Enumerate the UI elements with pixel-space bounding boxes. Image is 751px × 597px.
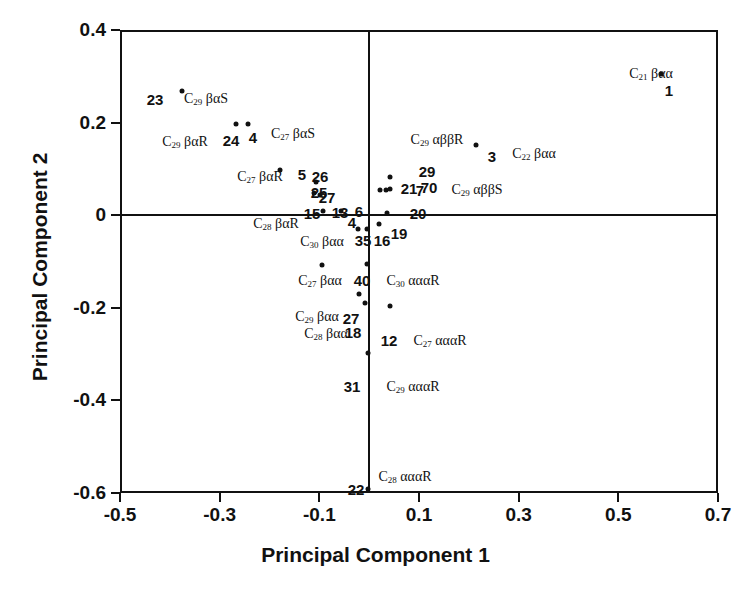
x-tick-label: 0.1 <box>384 504 454 526</box>
y-tick <box>111 122 120 124</box>
point-id-label: 5 <box>298 167 306 182</box>
x-tick-label: 0.5 <box>583 504 653 526</box>
scatter-point <box>320 209 325 214</box>
point-id-label: 21 <box>401 181 418 196</box>
pca-loadings-plot: -0.5-0.3-0.10.10.30.50.7 0.40.20-0.2-0.4… <box>0 0 751 597</box>
y-tick <box>111 29 120 31</box>
x-tick-label: -0.1 <box>284 504 354 526</box>
point-id-label: 22 <box>348 482 365 497</box>
x-tick-label: 0.7 <box>683 504 751 526</box>
y-tick-label: -0.6 <box>30 482 106 504</box>
compound-label: C29 αααR <box>386 380 439 395</box>
point-id-label: 29 <box>419 164 436 179</box>
y-tick <box>111 399 120 401</box>
compound-label: C29 αββS <box>451 183 502 198</box>
compound-label: C30 βαα <box>300 235 344 250</box>
x-tick <box>617 493 619 502</box>
compound-label: C29 βαS <box>184 92 228 107</box>
point-id-label: 13 <box>332 205 349 220</box>
x-tick-label: -0.5 <box>85 504 155 526</box>
point-id-label: 18 <box>345 325 362 340</box>
y-tick <box>111 307 120 309</box>
x-axis-title: Principal Component 1 <box>0 543 751 567</box>
point-id-label: 20 <box>410 206 427 221</box>
compound-label: C28 βαα <box>304 327 348 342</box>
compound-label: C27 βαS <box>271 127 315 142</box>
x-tick <box>119 493 121 502</box>
scatter-point <box>233 122 238 127</box>
compound-label: C29 βαα <box>295 310 339 325</box>
compound-label: C27 αααR <box>413 334 466 349</box>
point-id-label: 40 <box>354 273 371 288</box>
scatter-point <box>319 263 324 268</box>
x-tick-label: -0.3 <box>185 504 255 526</box>
x-tick <box>717 493 719 502</box>
x-tick-label: 0.3 <box>484 504 554 526</box>
point-id-label: 12 <box>381 333 398 348</box>
point-id-label: 1 <box>665 83 673 98</box>
point-id-label: 35 <box>355 233 372 248</box>
scatter-point <box>366 487 371 492</box>
point-id-label: 15 <box>304 206 321 221</box>
point-id-label: 70 <box>421 180 438 195</box>
scatter-point <box>357 291 362 296</box>
scatter-point <box>388 304 393 309</box>
scatter-point <box>388 175 393 180</box>
scatter-point <box>388 187 393 192</box>
x-tick <box>518 493 520 502</box>
point-id-label: 4 <box>348 215 356 230</box>
point-id-label: 19 <box>391 226 408 241</box>
scatter-point <box>378 188 383 193</box>
compound-label: C30 αααR <box>386 274 439 289</box>
y-tick-label: 0.4 <box>30 19 106 41</box>
scatter-point <box>364 261 369 266</box>
scatter-point <box>377 221 382 226</box>
y-axis-title: Principal Component 2 <box>28 77 52 457</box>
y-tick <box>111 214 120 216</box>
point-id-label: 24 <box>223 133 240 148</box>
x-tick <box>219 493 221 502</box>
compound-label: C28 αααR <box>378 470 431 485</box>
scatter-point <box>363 301 368 306</box>
point-id-label: 3 <box>488 149 496 164</box>
compound-label: C27 βαα <box>298 274 342 289</box>
scatter-point <box>366 351 371 356</box>
point-id-label: 26 <box>312 169 329 184</box>
point-id-label: 16 <box>374 233 391 248</box>
point-id-label: 23 <box>147 92 164 107</box>
compound-label: C28 βαR <box>253 217 299 232</box>
scatter-point <box>384 211 389 216</box>
x-tick <box>418 493 420 502</box>
point-id-label: 27 <box>319 190 336 205</box>
y-tick <box>111 492 120 494</box>
compound-label: C27 βαR <box>237 170 283 185</box>
compound-label: C22 βαα <box>512 147 556 162</box>
compound-label: C29 βαR <box>162 135 208 150</box>
scatter-point <box>246 121 251 126</box>
x-tick <box>318 493 320 502</box>
point-id-label: 4 <box>249 130 257 145</box>
point-id-label: 31 <box>344 379 361 394</box>
compound-label: C21 βαα <box>629 67 673 82</box>
scatter-point <box>474 142 479 147</box>
compound-label: C29 αββR <box>411 133 464 148</box>
